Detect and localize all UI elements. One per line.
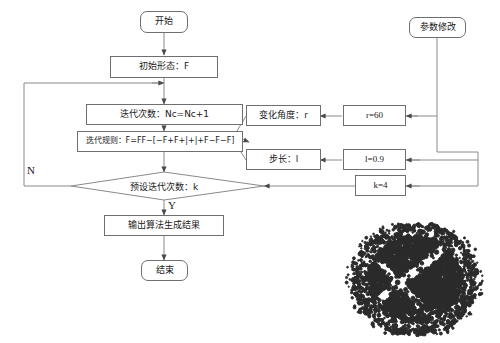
node-step-value-label: l=0.9: [365, 155, 384, 164]
edge-label-yes: Y: [168, 199, 176, 211]
edge-label-no-text: N: [27, 164, 35, 176]
node-initial-state-label: 初始形态：F: [139, 62, 189, 71]
node-end-label: 结束: [156, 266, 174, 275]
node-k-value[interactable]: k=4: [355, 175, 406, 196]
node-change-angle-label: 变化角度：r: [259, 111, 308, 120]
node-step-length-label: 步长：l: [269, 155, 299, 164]
node-step-value[interactable]: l=0.9: [343, 149, 406, 170]
edge-label-no: N: [27, 164, 35, 176]
node-iteration-count-label: 迭代次数：Nc=Nc+1: [120, 110, 209, 119]
edge-param-to-l: [410, 152, 478, 160]
edge-param-to-k: [410, 160, 478, 186]
node-end[interactable]: 结束: [141, 260, 188, 281]
node-k-value-label: k=4: [373, 181, 387, 190]
node-iteration-count[interactable]: 迭代次数：Nc=Nc+1: [86, 104, 243, 125]
node-decision-label-wrap[interactable]: 预设迭代次数：k: [100, 179, 228, 193]
fractal-image: [340, 222, 490, 337]
node-parameter-edit-label: 参数修改: [420, 23, 456, 32]
node-decision-label: 预设迭代次数：k: [130, 180, 198, 193]
flowchart-canvas: 开始 初始形态：F 迭代次数：Nc=Nc+1 迭代规则：F=FF−[−F+F+|…: [0, 0, 500, 343]
edge-label-yes-text: Y: [168, 199, 176, 211]
node-iteration-rule[interactable]: 迭代规则：F=FF−[−F+F+|+|+F−F−F]: [77, 131, 243, 152]
node-iteration-rule-label: 迭代规则：F=FF−[−F+F+|+|+F−F−F]: [86, 137, 235, 145]
node-angle-value-label: r=60: [366, 111, 383, 120]
node-parameter-edit[interactable]: 参数修改: [409, 17, 466, 38]
node-step-length[interactable]: 步长：l: [246, 149, 321, 170]
node-angle-value[interactable]: r=60: [343, 105, 406, 126]
node-initial-state[interactable]: 初始形态：F: [110, 56, 218, 78]
node-change-angle[interactable]: 变化角度：r: [246, 105, 321, 126]
node-start-label: 开始: [155, 17, 173, 26]
node-output-result[interactable]: 输出算法生成结果: [104, 215, 224, 236]
node-start[interactable]: 开始: [140, 11, 188, 33]
node-output-result-label: 输出算法生成结果: [128, 221, 200, 230]
